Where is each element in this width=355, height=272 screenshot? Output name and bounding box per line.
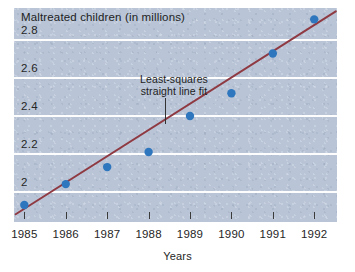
x-axis-title: Years bbox=[0, 250, 355, 262]
data-point bbox=[62, 180, 70, 188]
x-axis-tick-label: 1988 bbox=[135, 228, 161, 240]
x-axis-tick-mark bbox=[314, 212, 315, 219]
x-axis-tick-label: 1987 bbox=[94, 228, 120, 240]
y-axis-tick-label: 2.6 bbox=[21, 62, 38, 74]
data-point bbox=[20, 201, 28, 209]
x-axis-tick-label: 1989 bbox=[177, 228, 203, 240]
y-axis-tick-label: 2 bbox=[21, 176, 28, 188]
data-point bbox=[186, 112, 194, 120]
x-axis-tick-mark bbox=[149, 212, 150, 219]
x-axis-tick-label: 1991 bbox=[260, 228, 286, 240]
chart-title: Maltreated children (in millions) bbox=[21, 11, 185, 23]
data-point bbox=[310, 15, 318, 23]
x-axis-tick-mark bbox=[273, 212, 274, 219]
x-axis-tick-label: 1985 bbox=[11, 228, 37, 240]
data-layer bbox=[14, 8, 337, 222]
plot-area bbox=[14, 8, 337, 222]
y-axis-tick-label: 2.4 bbox=[21, 100, 38, 112]
x-axis-tick-mark bbox=[24, 212, 25, 219]
annotation-line-1: Least-squares bbox=[122, 73, 226, 85]
chart-figure: 22.22.42.62.8 19851986198719881989199019… bbox=[0, 0, 355, 272]
data-point bbox=[144, 148, 152, 156]
x-axis-tick-label: 1992 bbox=[301, 228, 327, 240]
x-axis-tick-mark bbox=[231, 212, 232, 219]
y-axis-tick-label: 2.2 bbox=[21, 138, 38, 150]
x-axis-tick-mark bbox=[107, 212, 108, 219]
data-point bbox=[103, 163, 111, 171]
data-point bbox=[269, 49, 277, 57]
annotation-line-2: straight line fit bbox=[122, 85, 226, 97]
y-axis-tick-label: 2.8 bbox=[21, 24, 38, 36]
least-squares-annotation: Least-squares straight line fit bbox=[122, 73, 226, 97]
x-axis-tick-label: 1986 bbox=[53, 228, 79, 240]
data-point bbox=[227, 89, 235, 97]
x-axis-tick-mark bbox=[66, 212, 67, 219]
x-axis-tick-label: 1990 bbox=[218, 228, 244, 240]
annotation-leader-line bbox=[165, 98, 166, 124]
x-axis-tick-mark bbox=[190, 212, 191, 219]
data-point-group bbox=[20, 15, 318, 209]
